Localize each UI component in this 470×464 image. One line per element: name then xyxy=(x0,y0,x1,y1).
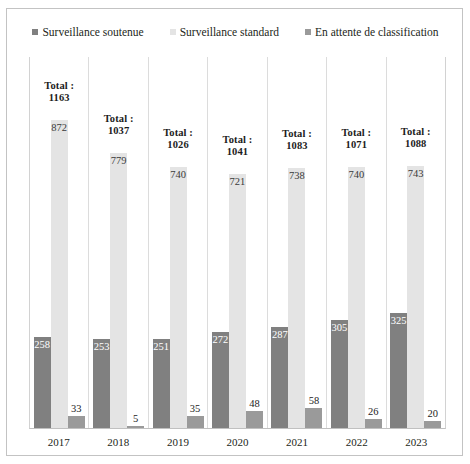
chart-frame: Surveillance soutenue Surveillance stand… xyxy=(6,8,463,456)
legend-item-surveillance-soutenue: Surveillance soutenue xyxy=(32,26,143,38)
bar-slot: 272 xyxy=(212,57,229,428)
bar-value-label: 33 xyxy=(71,403,82,415)
bar-slot: 872 xyxy=(51,57,68,428)
bar-2021-series-3[interactable]: 58 xyxy=(305,408,322,428)
bar-slot: 5 xyxy=(127,57,144,428)
bar-2021-series-2[interactable]: 738 xyxy=(288,168,305,429)
bar-2020-series-1[interactable]: 272 xyxy=(212,332,229,428)
bar-2021-series-1[interactable]: 287 xyxy=(271,327,288,428)
bar-value-label: 305 xyxy=(331,322,347,334)
bar-slot: 740 xyxy=(348,57,365,428)
bar-slot: 740 xyxy=(170,57,187,428)
x-axis: 2017201820192020202120222023 xyxy=(29,430,446,448)
bar-cluster: 2537795 xyxy=(89,57,147,428)
bar-2023-series-2[interactable]: 743 xyxy=(407,166,424,428)
bar-2018-series-3[interactable]: 5 xyxy=(127,426,144,428)
bar-2019-series-2[interactable]: 740 xyxy=(170,167,187,428)
bar-slot: 26 xyxy=(365,57,382,428)
x-tick-2019: 2019 xyxy=(148,430,208,448)
bar-2018-series-1[interactable]: 253 xyxy=(93,339,110,428)
x-tick-2023: 2023 xyxy=(386,430,446,448)
bar-group-2017: Total :116325887233 xyxy=(30,57,89,428)
bar-slot: 287 xyxy=(271,57,288,428)
bar-value-label: 779 xyxy=(111,155,127,167)
bar-value-label: 20 xyxy=(427,408,438,420)
bar-2020-series-3[interactable]: 48 xyxy=(246,411,263,428)
bar-value-label: 251 xyxy=(153,341,169,353)
bar-2017-series-2[interactable]: 872 xyxy=(51,120,68,428)
bar-value-label: 721 xyxy=(230,176,246,188)
bar-2022-series-2[interactable]: 740 xyxy=(348,167,365,428)
bar-2019-series-1[interactable]: 251 xyxy=(153,339,170,428)
bar-slot: 743 xyxy=(407,57,424,428)
bar-value-label: 740 xyxy=(170,169,186,181)
chart-legend: Surveillance soutenue Surveillance stand… xyxy=(7,26,464,38)
bar-group-2021: Total :108328773858 xyxy=(268,57,327,428)
bar-2023-series-1[interactable]: 325 xyxy=(390,313,407,428)
chart-screenshot: Surveillance soutenue Surveillance stand… xyxy=(0,0,470,464)
bar-group-2022: Total :107130574026 xyxy=(327,57,386,428)
bar-value-label: 35 xyxy=(190,403,201,415)
x-tick-2017: 2017 xyxy=(29,430,89,448)
bar-slot: 58 xyxy=(305,57,322,428)
legend-label: Surveillance soutenue xyxy=(42,26,143,38)
bar-slot: 305 xyxy=(331,57,348,428)
bar-2022-series-1[interactable]: 305 xyxy=(331,320,348,428)
bar-slot: 721 xyxy=(229,57,246,428)
x-tick-2020: 2020 xyxy=(208,430,268,448)
bar-slot: 779 xyxy=(110,57,127,428)
bar-value-label: 58 xyxy=(309,395,320,407)
bar-value-label: 48 xyxy=(249,398,260,410)
bar-group-2023: Total :108832574320 xyxy=(387,57,445,428)
legend-swatch-icon xyxy=(170,29,176,35)
bar-2017-series-3[interactable]: 33 xyxy=(68,416,85,428)
bar-value-label: 872 xyxy=(51,122,67,134)
bar-slot: 253 xyxy=(93,57,110,428)
bar-value-label: 5 xyxy=(133,413,138,425)
bar-slot: 258 xyxy=(34,57,51,428)
bar-slot: 738 xyxy=(288,57,305,428)
bar-slot: 20 xyxy=(424,57,441,428)
bar-cluster: 30574026 xyxy=(327,57,385,428)
bar-cluster: 32574320 xyxy=(387,57,445,428)
legend-swatch-icon xyxy=(32,29,38,35)
legend-item-en-attente-de-classification: En attente de classification xyxy=(305,26,439,38)
plot-area: Total :116325887233Total :10372537795Tot… xyxy=(29,57,446,429)
legend-label: Surveillance standard xyxy=(180,26,279,38)
bar-value-label: 26 xyxy=(368,406,379,418)
bar-2020-series-2[interactable]: 721 xyxy=(229,174,246,429)
bar-cluster: 28773858 xyxy=(268,57,326,428)
bar-group-2020: Total :104127272148 xyxy=(208,57,267,428)
bar-cluster: 25174035 xyxy=(149,57,207,428)
bar-slot: 48 xyxy=(246,57,263,428)
bar-value-label: 258 xyxy=(34,339,50,351)
bar-2019-series-3[interactable]: 35 xyxy=(187,416,204,428)
bar-slot: 251 xyxy=(153,57,170,428)
bar-cluster: 27272148 xyxy=(208,57,266,428)
bar-slot: 35 xyxy=(187,57,204,428)
bar-value-label: 287 xyxy=(272,329,288,341)
bar-2018-series-2[interactable]: 779 xyxy=(110,153,127,428)
x-tick-2022: 2022 xyxy=(327,430,387,448)
bar-value-label: 253 xyxy=(94,341,110,353)
legend-label: En attente de classification xyxy=(315,26,439,38)
bar-value-label: 743 xyxy=(408,168,424,180)
legend-swatch-icon xyxy=(305,29,311,35)
x-tick-2018: 2018 xyxy=(89,430,149,448)
x-tick-2021: 2021 xyxy=(267,430,327,448)
bar-value-label: 325 xyxy=(391,315,407,327)
bar-slot: 33 xyxy=(68,57,85,428)
bar-2023-series-3[interactable]: 20 xyxy=(424,421,441,428)
bar-value-label: 272 xyxy=(213,334,229,346)
bar-slot: 325 xyxy=(390,57,407,428)
bar-cluster: 25887233 xyxy=(30,57,88,428)
bar-group-2019: Total :102625174035 xyxy=(149,57,208,428)
bar-2017-series-1[interactable]: 258 xyxy=(34,337,51,428)
legend-item-surveillance-standard: Surveillance standard xyxy=(170,26,279,38)
bar-group-2018: Total :10372537795 xyxy=(89,57,148,428)
clipped-header-text xyxy=(0,0,470,7)
bar-value-label: 738 xyxy=(289,170,305,182)
bar-value-label: 740 xyxy=(348,169,364,181)
bar-2022-series-3[interactable]: 26 xyxy=(365,419,382,428)
